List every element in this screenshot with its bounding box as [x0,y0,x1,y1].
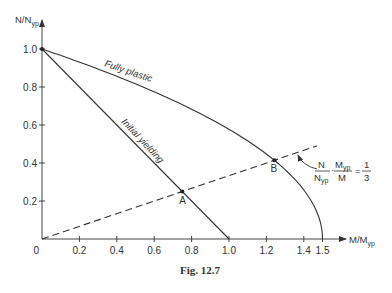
x-tick-label: 0.6 [147,245,161,256]
point-b [272,158,276,162]
point-label-b: B [270,163,277,174]
ann-dot: · [331,164,334,175]
figure-caption: Fig. 12.7 [180,264,220,276]
ticks: 00.20.40.60.81.01.21.41.50.20.40.60.81.0 [23,44,330,257]
ann-den-n: Nyp [314,172,328,185]
ann-equals: = [355,165,361,176]
point-origin-top [40,47,44,51]
y-axis-label: N/Nyp [15,14,39,28]
ann-num-n: N [318,159,325,170]
y-tick-label: 0.8 [23,82,37,93]
x-tick-label: 1.0 [222,245,236,256]
y-tick-label: 0.4 [23,158,37,169]
ann-den-n-sub: yp [321,177,329,185]
point-label-a: A [179,195,186,206]
y-tick-label: 0.6 [23,120,37,131]
x-tick-label: 0.8 [185,245,199,256]
x-tick-label: 1.2 [259,245,273,256]
ann-num-m: Myp [335,159,350,172]
x-tick-label: 1.5 [316,245,330,256]
y-axis-label-sub: yp [31,20,39,28]
interaction-chart: 00.20.40.60.81.01.21.41.50.20.40.60.81.0… [0,0,392,262]
y-tick-label: 1.0 [23,44,37,55]
fully-plastic-label: Fully plastic [103,57,154,84]
fully-plastic-curve [42,49,323,239]
initial-yielding-label: Initial yielding [120,116,167,166]
axes [42,20,346,239]
x-tick-label: 0.2 [72,245,86,256]
x-tick-label: 0.4 [110,245,124,256]
ann-frac-num: 1 [364,159,369,170]
x-tick-label: 0 [33,245,39,256]
annotation-arrow [298,155,317,169]
y-tick-label: 0.2 [23,196,37,207]
x-tick-label: 1.4 [297,245,311,256]
labels-group: M/MypN/NypABFully plasticInitial yieldin… [15,14,375,248]
series-group [42,49,323,239]
ann-frac-den: 3 [364,172,369,183]
ann-den-m: M [338,172,346,183]
x-axis-label: M/Myp [349,234,375,248]
x-axis-label-sub: yp [367,240,375,248]
point-a [180,190,184,194]
